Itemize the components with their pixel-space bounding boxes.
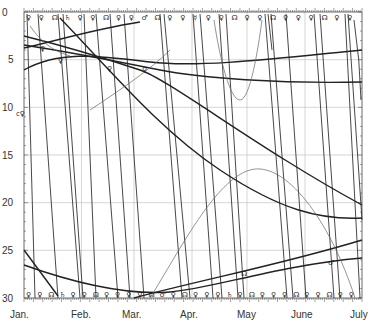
top-symbol: ☊ [103,14,109,22]
bottom-symbol: ☊ [182,291,188,299]
top-symbol: ♀ [180,14,185,22]
bottom-symbol: ♀ [26,291,31,299]
top-symbol: ♀ [26,14,31,22]
inner-symbol-1: ♀ [40,45,45,53]
bottom-symbol: ♀ [115,291,120,299]
ephemeris-chart: 0 5 10 15 20 25 30 c♀ Jan. Feb. Mar. Apr… [0,0,380,327]
inner-symbols: ♀ ♀ ♀ ♀ ☊ ♂ [40,45,334,278]
top-ruler-ticks [24,8,362,12]
top-symbol: ☊ [321,14,327,22]
y-axis-labels: 0 5 10 15 20 25 30 c♀ [2,7,25,304]
bottom-symbol: ♀ [104,291,109,299]
bottom-symbol: ☊ [293,291,299,299]
bottom-symbol: ♀ [304,291,309,299]
top-symbol: ♀ [244,14,249,22]
top-symbol: ♀ [257,14,262,22]
x-label-feb: Feb. [71,309,91,320]
bottom-symbol: ♀ [171,291,176,299]
top-symbol: ♄ [65,14,71,22]
x-label-july: July [350,309,368,320]
top-symbol: ☊ [52,14,58,22]
bottom-symbol: ♀ [126,291,131,299]
x-label-june: June [291,309,313,320]
y-label-30: 30 [2,293,14,304]
bottom-symbol: ♄ [59,291,65,299]
inner-symbol-3: ♀ [107,65,112,73]
side-marker: c♀ [16,110,25,118]
bottom-symbol: ♄ [226,291,232,299]
inner-symbol-node: ☊ [241,270,247,278]
top-symbols: ♀♀☊♄♀♀☊♀♀♂☊♀♀☿♀♀☊♀♀☊♀♀♀☊♀♀ [26,14,352,22]
top-symbol: ☊ [270,14,276,22]
bottom-symbol: ♀ [137,291,142,299]
top-symbol: ♀ [77,14,82,22]
top-symbol: ♀ [347,14,352,22]
top-symbol: ♀ [296,14,301,22]
bottom-symbol: ♀ [260,291,265,299]
top-symbol: ☿ [193,14,197,22]
bottom-symbol: ♀ [193,291,198,299]
y-label-25: 25 [2,245,14,256]
y-label-20: 20 [2,197,14,208]
x-label-may: May [237,309,256,320]
y-label-5: 5 [8,54,14,65]
x-label-jan: Jan. [10,309,29,320]
bottom-symbol: ♀ [215,291,220,299]
bottom-symbol: ♀ [238,291,243,299]
y-label-15: 15 [2,150,14,161]
top-symbol: ♀ [334,14,339,22]
top-symbol: ♀ [309,14,314,22]
thin-curves [30,20,355,298]
y-label-10: 10 [2,102,14,113]
top-symbol: ♀ [219,14,224,22]
y-label-0: 0 [2,7,8,18]
bottom-symbol: ♀ [71,291,76,299]
top-symbol: ♀ [39,14,44,22]
bottom-symbol: ♀ [271,291,276,299]
bottom-symbol: ☊ [249,291,255,299]
x-label-apr: Apr. [180,309,198,320]
bottom-symbol: ☊ [327,291,333,299]
top-symbol: ♂ [142,14,148,22]
bottom-symbol: ☊ [48,291,54,299]
top-symbol: ♀ [167,14,172,22]
x-label-mar: Mar. [122,309,141,320]
inner-symbol-mars: ♂ [328,259,334,267]
bottom-symbol: ♀ [338,291,343,299]
x-axis-labels: Jan. Feb. Mar. Apr. May June July [10,309,368,320]
bottom-symbol: ♀ [37,291,42,299]
bottom-symbol: ♂ [160,291,166,299]
top-symbol: ♀ [206,14,211,22]
top-symbol: ♀ [90,14,95,22]
bottom-symbol: ☊ [148,291,154,299]
top-symbol: ☊ [154,14,160,22]
top-symbol: ♀ [116,14,121,22]
top-symbol: ♀ [283,14,288,22]
bottom-symbol: ♀ [82,291,87,299]
top-symbol: ♀ [129,14,134,22]
inner-symbol-2: ♀ [58,57,63,65]
bottom-symbol: ♀ [315,291,320,299]
bottom-symbol: ♀ [349,291,354,299]
bottom-symbol: ☊ [93,291,99,299]
bottom-symbol: ♀ [204,291,209,299]
inner-symbol-4: ♀ [142,66,147,74]
top-symbol: ☊ [232,14,238,22]
bottom-symbol: ♀ [282,291,287,299]
